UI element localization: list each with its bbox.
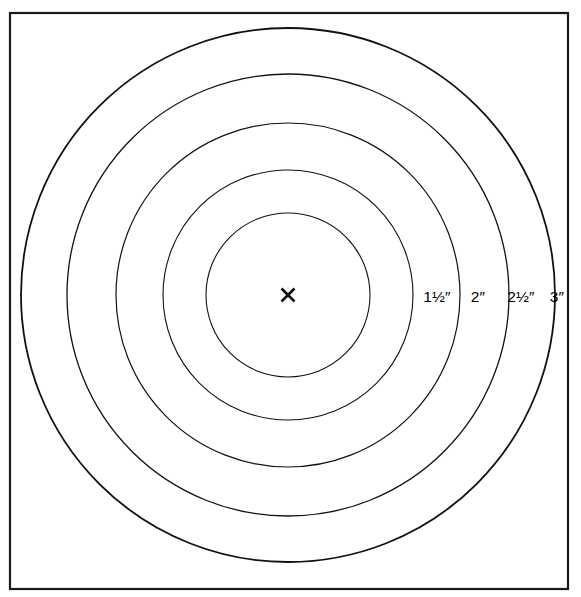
center-cross-icon	[282, 289, 295, 302]
ring-label-2-inch: 2″	[471, 289, 485, 305]
ring-label-2-5-inch: 2½″	[507, 289, 534, 305]
ring-label-1-5-inch: 1½″	[423, 289, 450, 305]
ring-label-3-inch: 3″	[550, 289, 564, 305]
target-diagram-figure: 1½″ 2″ 2½″ 3″	[0, 0, 581, 597]
target-canvas	[0, 0, 581, 597]
